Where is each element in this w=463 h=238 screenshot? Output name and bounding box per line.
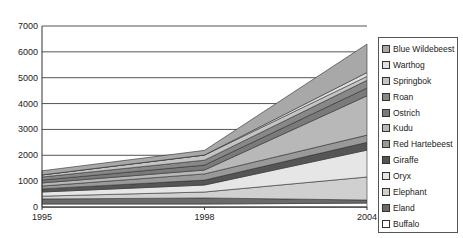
legend-item: Giraffe [382, 152, 457, 168]
y-tick-label: 0 [33, 202, 38, 212]
legend-item: Blue Wildebeest [382, 41, 457, 57]
y-tick-label: 1000 [18, 176, 38, 186]
legend-swatch-icon [382, 172, 390, 180]
legend-swatch-icon [382, 93, 390, 101]
legend-item: Warthog [382, 57, 457, 73]
legend-item: Elephant [382, 184, 457, 200]
legend-label: Oryx [393, 171, 411, 181]
y-tick-label: 7000 [18, 21, 38, 31]
y-tick-label: 6000 [18, 47, 38, 57]
legend-label: Ostrich [393, 108, 420, 118]
legend-item: Ostrich [382, 105, 457, 121]
legend-label: Roan [393, 92, 413, 102]
legend-label: Blue Wildebeest [393, 44, 454, 54]
legend-swatch-icon [382, 45, 390, 53]
area-series [42, 44, 367, 207]
x-tick-label: 2004 [357, 212, 377, 222]
legend-item: Oryx [382, 168, 457, 184]
legend-label: Buffalo [393, 219, 419, 229]
legend-item: Kudu [382, 120, 457, 136]
legend-swatch-icon [382, 140, 390, 148]
y-tick-label: 5000 [18, 73, 38, 83]
legend-item: Springbok [382, 73, 457, 89]
legend-swatch-icon [382, 156, 390, 164]
legend-item: Buffalo [382, 216, 457, 232]
legend-label: Red Hartebeest [393, 139, 453, 149]
legend-swatch-icon [382, 220, 390, 228]
legend-swatch-icon [382, 124, 390, 132]
legend-swatch-icon [382, 61, 390, 69]
legend-swatch-icon [382, 188, 390, 196]
y-tick-label: 3000 [18, 124, 38, 134]
y-tick-label: 2000 [18, 150, 38, 160]
legend-item: Red Hartebeest [382, 136, 457, 152]
x-tick-label: 1998 [194, 212, 214, 222]
x-tick-label: 1995 [32, 212, 52, 222]
legend: Blue WildebeestWarthogSpringbokRoanOstri… [378, 37, 458, 233]
legend-swatch-icon [382, 204, 390, 212]
legend-label: Warthog [393, 60, 425, 70]
legend-label: Springbok [393, 76, 431, 86]
legend-swatch-icon [382, 109, 390, 117]
legend-label: Giraffe [393, 155, 418, 165]
legend-swatch-icon [382, 77, 390, 85]
legend-item: Eland [382, 200, 457, 216]
legend-item: Roan [382, 89, 457, 105]
legend-label: Kudu [393, 123, 413, 133]
legend-label: Elephant [393, 187, 427, 197]
legend-label: Eland [393, 203, 415, 213]
y-tick-label: 4000 [18, 99, 38, 109]
